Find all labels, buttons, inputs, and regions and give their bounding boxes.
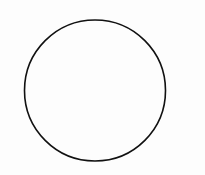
diagram-svg [0,0,205,175]
circle-shape [25,20,166,161]
diagram-canvas [0,0,205,175]
